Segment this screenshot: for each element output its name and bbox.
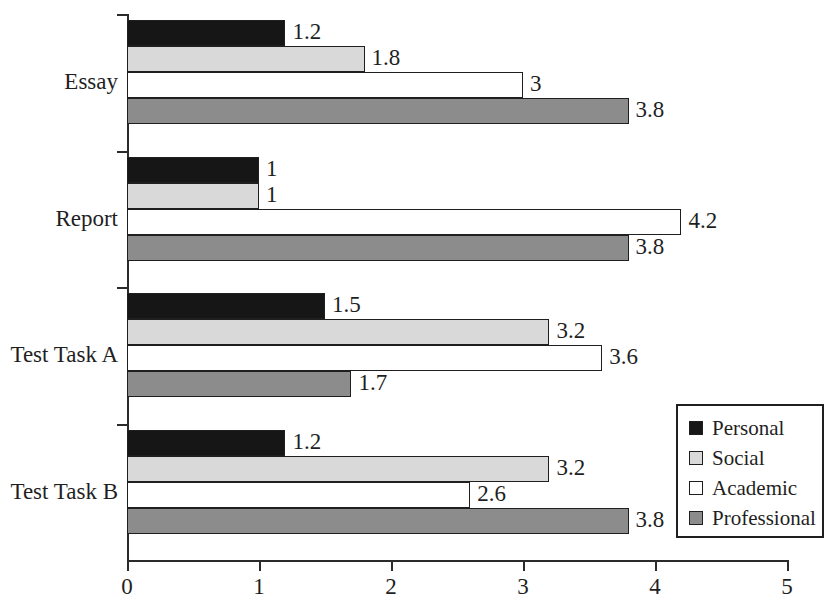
- bar-value-label: 1: [266, 156, 278, 182]
- x-axis-tick: [523, 560, 525, 571]
- bar-value-label: 3.2: [556, 455, 585, 481]
- bar-academic: [127, 72, 523, 98]
- x-axis-tick-label: 4: [635, 574, 675, 600]
- bar-value-label: 1.7: [358, 370, 387, 396]
- bar-professional: [127, 235, 629, 261]
- bar-value-label: 3.8: [636, 97, 665, 123]
- bar-social: [127, 46, 365, 72]
- category-label: Test Task B: [0, 479, 118, 505]
- bar-personal: [127, 20, 285, 46]
- x-axis-line: [127, 560, 788, 562]
- x-axis-tick: [787, 560, 789, 571]
- legend-item-academic[interactable]: Academic: [689, 473, 822, 503]
- category-label: Test Task A: [0, 342, 118, 368]
- legend-swatch-social-icon: [689, 451, 703, 465]
- bar-professional: [127, 508, 629, 534]
- category-label: Report: [0, 206, 118, 232]
- legend-item-personal[interactable]: Personal: [689, 413, 822, 443]
- category-label-text: Essay: [0, 69, 118, 95]
- bar-value-label: 4.2: [688, 208, 717, 234]
- bar-personal: [127, 293, 325, 319]
- category-label-text: Test Task A: [0, 342, 118, 368]
- bar-professional: [127, 98, 629, 124]
- category-label-text: Test Task B: [0, 479, 118, 505]
- legend-swatch-professional-icon: [689, 511, 703, 525]
- bar-social: [127, 183, 259, 209]
- x-axis-tick-label: 5: [767, 574, 807, 600]
- x-axis-tick: [391, 560, 393, 571]
- category-label: Essay: [0, 69, 118, 95]
- bar-personal: [127, 430, 285, 456]
- legend: Personal Social Academic Professional: [676, 404, 824, 538]
- legend-label-personal: Personal: [712, 416, 784, 440]
- bar-value-label: 3.8: [636, 234, 665, 260]
- bar-value-label: 3.8: [636, 507, 665, 533]
- bar-social: [127, 319, 549, 345]
- x-axis-tick-label: 0: [107, 574, 147, 600]
- bar-value-label: 3.2: [556, 318, 585, 344]
- bar-value-label: 1.2: [292, 429, 321, 455]
- bar-chart: EssayReportTest Task ATest Task B 1.21.8…: [0, 0, 836, 610]
- legend-item-professional[interactable]: Professional: [689, 503, 822, 533]
- x-axis-tick-label: 2: [371, 574, 411, 600]
- legend-swatch-academic-icon: [689, 481, 703, 495]
- legend-label-professional: Professional: [712, 506, 816, 530]
- bar-value-label: 3: [530, 71, 542, 97]
- category-label-text: Report: [0, 206, 118, 232]
- legend-item-social[interactable]: Social: [689, 443, 822, 473]
- y-axis-tick: [117, 151, 128, 153]
- x-axis-tick-label: 1: [239, 574, 279, 600]
- y-axis-tick: [117, 287, 128, 289]
- bar-value-label: 1.5: [332, 292, 361, 318]
- bar-professional: [127, 371, 351, 397]
- x-axis-tick: [127, 560, 129, 571]
- bar-academic: [127, 209, 681, 235]
- bar-value-label: 1.2: [292, 19, 321, 45]
- x-axis-tick: [655, 560, 657, 571]
- bar-personal: [127, 157, 259, 183]
- bar-academic: [127, 482, 470, 508]
- y-axis-tick: [117, 424, 128, 426]
- legend-label-social: Social: [712, 446, 765, 470]
- y-axis-tick: [117, 14, 128, 16]
- bar-social: [127, 456, 549, 482]
- x-axis-tick: [259, 560, 261, 571]
- bar-academic: [127, 345, 602, 371]
- x-axis-tick-label: 3: [503, 574, 543, 600]
- bar-value-label: 1.8: [372, 45, 401, 71]
- bar-value-label: 3.6: [609, 344, 638, 370]
- legend-label-academic: Academic: [712, 476, 797, 500]
- legend-swatch-personal-icon: [689, 421, 703, 435]
- bar-value-label: 1: [266, 182, 278, 208]
- bar-value-label: 2.6: [477, 481, 506, 507]
